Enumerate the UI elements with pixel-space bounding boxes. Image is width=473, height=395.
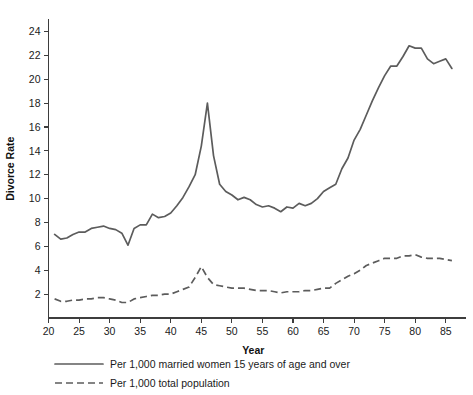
legend-label: Per 1,000 total population (110, 377, 230, 389)
x-tick-label: 35 (134, 325, 146, 337)
y-tick-label: 14 (29, 145, 41, 157)
divorce-rate-chart: 24681012141618202224 2025303540455055606… (0, 0, 473, 395)
y-axis-title: Divorce Rate (4, 136, 16, 200)
x-tick-label: 45 (195, 325, 207, 337)
y-tick-label: 12 (29, 168, 41, 180)
y-tick-label: 16 (29, 121, 41, 133)
series-line-dashed (55, 255, 452, 303)
y-tick-label: 8 (35, 216, 41, 228)
y-tick-label: 10 (29, 192, 41, 204)
chart-legend: Per 1,000 married women 15 years of age … (55, 358, 350, 389)
x-tick-label: 30 (104, 325, 116, 337)
y-tick-label: 24 (29, 25, 41, 37)
y-tick-label: 6 (35, 240, 41, 252)
x-tick-label: 20 (43, 325, 55, 337)
y-axis-ticks: 24681012141618202224 (29, 25, 49, 300)
x-tick-label: 85 (440, 325, 452, 337)
y-tick-label: 22 (29, 49, 41, 61)
x-tick-label: 75 (379, 325, 391, 337)
y-tick-label: 2 (35, 288, 41, 300)
x-axis-title: Year (242, 344, 264, 356)
x-tick-label: 25 (73, 325, 85, 337)
x-tick-label: 60 (287, 325, 299, 337)
legend-label: Per 1,000 married women 15 years of age … (110, 358, 350, 370)
x-axis-ticks: 2025303540455055606570758085 (43, 318, 452, 337)
x-tick-label: 55 (257, 325, 269, 337)
x-tick-label: 65 (318, 325, 330, 337)
x-tick-label: 40 (165, 325, 177, 337)
chart-svg: 24681012141618202224 2025303540455055606… (0, 0, 473, 395)
x-tick-label: 70 (348, 325, 360, 337)
x-tick-label: 50 (226, 325, 238, 337)
y-tick-label: 4 (35, 264, 41, 276)
y-tick-label: 20 (29, 73, 41, 85)
data-series-group (55, 46, 452, 303)
plot-area: 24681012141618202224 2025303540455055606… (29, 19, 466, 337)
series-line-solid (55, 46, 452, 245)
y-tick-label: 18 (29, 97, 41, 109)
x-tick-label: 80 (409, 325, 421, 337)
